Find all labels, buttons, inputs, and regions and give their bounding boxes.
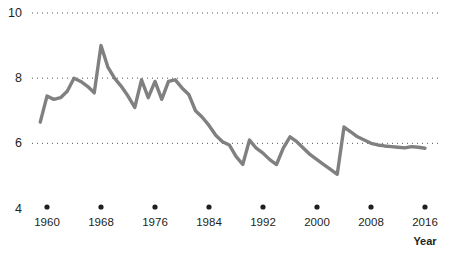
x-tick-dot-2000	[314, 204, 319, 209]
x-tick-label-2008: 2008	[348, 217, 394, 229]
x-tick-marks	[44, 204, 427, 209]
x-tick-dot-1992	[260, 204, 265, 209]
x-tick-label-1992: 1992	[240, 217, 286, 229]
x-tick-dot-1968	[98, 204, 103, 209]
x-tick-label-1968: 1968	[78, 217, 124, 229]
x-tick-dot-1984	[206, 204, 211, 209]
y-tick-label-10: 10	[0, 7, 22, 20]
x-tick-label-1984: 1984	[186, 217, 232, 229]
x-tick-label-2016: 2016	[402, 217, 448, 229]
x-axis-title: Year	[402, 236, 448, 247]
x-tick-dot-2008	[368, 204, 373, 209]
y-tick-label-6: 6	[0, 137, 22, 150]
x-tick-label-1976: 1976	[132, 217, 178, 229]
y-tick-label-4: 4	[0, 203, 22, 216]
x-tick-dot-1960	[44, 204, 49, 209]
y-tick-label-8: 8	[0, 72, 22, 85]
x-tick-dot-1976	[152, 204, 157, 209]
x-tick-label-1960: 1960	[24, 217, 70, 229]
x-tick-dot-2016	[422, 204, 427, 209]
data-series-line	[40, 46, 425, 175]
line-chart: 10864 19601968197619841992200020082016 Y…	[0, 0, 451, 256]
x-tick-label-2000: 2000	[294, 217, 340, 229]
gridlines	[32, 13, 438, 143]
